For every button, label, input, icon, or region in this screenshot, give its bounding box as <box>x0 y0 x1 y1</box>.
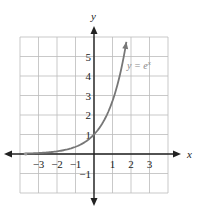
x-axis-right-arrow-icon <box>173 151 181 158</box>
exponential-graph: −3−2−112354321−1 x y y = ex <box>0 0 202 210</box>
curve-exponential <box>24 42 127 154</box>
y-axis-up-arrow-icon <box>91 26 98 34</box>
y-tick-label: 4 <box>86 70 92 82</box>
axes <box>4 26 181 206</box>
y-tick-label: −1 <box>79 168 91 180</box>
x-tick-label: −2 <box>51 158 63 170</box>
x-tick-label: 2 <box>128 158 134 170</box>
x-axis-left-arrow-icon <box>4 151 12 158</box>
x-tick-label: 3 <box>147 158 153 170</box>
curve-start-point <box>24 152 27 155</box>
curve-label: y = ex <box>126 59 152 71</box>
y-tick-label: 5 <box>86 51 92 63</box>
curve-label-exponent: x <box>147 59 152 67</box>
x-tick-label: 1 <box>110 158 116 170</box>
x-axis-label: x <box>186 148 192 160</box>
y-axis-down-arrow-icon <box>91 198 98 206</box>
curve-label-base: y = e <box>126 60 148 71</box>
x-tick-label: −3 <box>33 158 45 170</box>
curve-arrowhead-icon <box>122 42 128 49</box>
y-tick-label: 3 <box>86 90 92 102</box>
y-tick-label: 2 <box>86 109 92 121</box>
y-axis-label: y <box>90 10 96 22</box>
